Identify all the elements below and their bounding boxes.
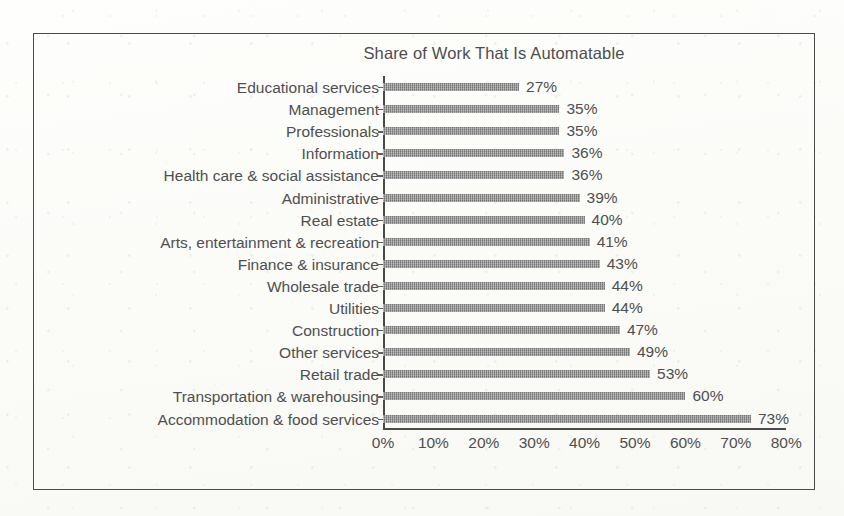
bar-value-label: 53% bbox=[657, 363, 688, 385]
bar bbox=[383, 149, 564, 157]
category-axis-labels: Educational servicesManagementProfession… bbox=[34, 72, 379, 430]
bar-row: 49% bbox=[383, 341, 816, 363]
chart-frame: Share of Work That Is Automatable Educat… bbox=[33, 33, 815, 490]
x-axis-tick-label: 80% bbox=[771, 434, 802, 452]
bar bbox=[383, 238, 590, 246]
bar-value-label: 44% bbox=[612, 297, 643, 319]
bar-row: 27% bbox=[383, 76, 816, 98]
bar-value-label: 35% bbox=[566, 120, 597, 142]
plot-area: Educational servicesManagementProfession… bbox=[34, 72, 816, 472]
bar-value-label: 49% bbox=[637, 341, 668, 363]
x-axis-tick-label: 50% bbox=[619, 434, 650, 452]
bar-row: 43% bbox=[383, 253, 816, 275]
bar-row: 36% bbox=[383, 164, 816, 186]
category-label: Finance & insurance bbox=[34, 257, 379, 273]
y-axis-tick bbox=[378, 396, 383, 397]
x-axis-tick-label: 20% bbox=[468, 434, 499, 452]
bar bbox=[383, 171, 564, 179]
category-label: Professionals bbox=[34, 124, 379, 140]
category-label: Administrative bbox=[34, 191, 379, 207]
category-label: Real estate bbox=[34, 213, 379, 229]
bar bbox=[383, 304, 605, 312]
bar bbox=[383, 415, 751, 423]
bar-series: 27%35%35%36%36%39%40%41%43%44%44%47%49%5… bbox=[383, 72, 816, 430]
bar bbox=[383, 392, 685, 400]
bar-value-label: 36% bbox=[571, 142, 602, 164]
y-axis-tick bbox=[378, 220, 383, 221]
bar-row: 41% bbox=[383, 231, 816, 253]
bar bbox=[383, 127, 559, 135]
category-label: Retail trade bbox=[34, 367, 379, 383]
category-label: Accommodation & food services bbox=[34, 412, 379, 428]
x-axis-tick-labels: 0%10%20%30%40%50%60%70%80% bbox=[383, 432, 787, 458]
bar-row: 53% bbox=[383, 363, 816, 385]
bar bbox=[383, 194, 580, 202]
y-axis-tick bbox=[378, 374, 383, 375]
y-axis-tick bbox=[378, 286, 383, 287]
bar-value-label: 47% bbox=[627, 319, 658, 341]
bar-value-label: 40% bbox=[592, 209, 623, 231]
x-axis-tick-label: 60% bbox=[670, 434, 701, 452]
y-axis-tick bbox=[378, 264, 383, 265]
x-axis-tick-label: 70% bbox=[720, 434, 751, 452]
category-label: Wholesale trade bbox=[34, 279, 379, 295]
y-axis-tick bbox=[378, 109, 383, 110]
y-axis-tick bbox=[378, 242, 383, 243]
bar-value-label: 44% bbox=[612, 275, 643, 297]
bar-value-label: 60% bbox=[692, 385, 723, 407]
y-axis-tick bbox=[378, 131, 383, 132]
bar bbox=[383, 105, 559, 113]
x-axis-tick-label: 40% bbox=[569, 434, 600, 452]
category-label: Other services bbox=[34, 345, 379, 361]
y-axis-tick bbox=[378, 175, 383, 176]
category-label: Utilities bbox=[34, 301, 379, 317]
bar-row: 39% bbox=[383, 187, 816, 209]
bar bbox=[383, 370, 650, 378]
y-axis-tick bbox=[378, 308, 383, 309]
bar-value-label: 36% bbox=[571, 164, 602, 186]
bar-row: 44% bbox=[383, 275, 816, 297]
x-axis-line bbox=[383, 428, 786, 430]
chart-title: Share of Work That Is Automatable bbox=[34, 44, 814, 63]
bar-row: 44% bbox=[383, 297, 816, 319]
category-label: Arts, entertainment & recreation bbox=[34, 235, 379, 251]
y-axis-tick bbox=[378, 198, 383, 199]
category-label: Construction bbox=[34, 323, 379, 339]
bar bbox=[383, 326, 620, 334]
category-label: Educational services bbox=[34, 80, 379, 96]
bar-value-label: 39% bbox=[587, 187, 618, 209]
bar-row: 73% bbox=[383, 408, 816, 430]
y-axis-tick bbox=[378, 87, 383, 88]
category-label: Transportation & warehousing bbox=[34, 389, 379, 405]
bar-value-label: 43% bbox=[607, 253, 638, 275]
category-label: Health care & social assistance bbox=[34, 168, 379, 184]
bar bbox=[383, 348, 630, 356]
y-axis-tick bbox=[378, 153, 383, 154]
bar-row: 35% bbox=[383, 98, 816, 120]
bar-row: 47% bbox=[383, 319, 816, 341]
category-label: Information bbox=[34, 146, 379, 162]
bar-value-label: 27% bbox=[526, 76, 557, 98]
bar-value-label: 41% bbox=[597, 231, 628, 253]
x-axis-tick-label: 30% bbox=[519, 434, 550, 452]
y-axis-tick bbox=[378, 419, 383, 420]
bar-row: 40% bbox=[383, 209, 816, 231]
x-axis-tick-label: 10% bbox=[418, 434, 449, 452]
bar-value-label: 35% bbox=[566, 98, 597, 120]
bar bbox=[383, 216, 585, 224]
bar-value-label: 73% bbox=[758, 408, 789, 430]
y-axis-tick bbox=[378, 330, 383, 331]
x-axis-tick-label: 0% bbox=[372, 434, 394, 452]
bar bbox=[383, 83, 519, 91]
bar bbox=[383, 282, 605, 290]
bar-row: 60% bbox=[383, 385, 816, 407]
bar-row: 35% bbox=[383, 120, 816, 142]
bar bbox=[383, 260, 600, 268]
bar-row: 36% bbox=[383, 142, 816, 164]
y-axis-tick bbox=[378, 352, 383, 353]
category-label: Management bbox=[34, 102, 379, 118]
